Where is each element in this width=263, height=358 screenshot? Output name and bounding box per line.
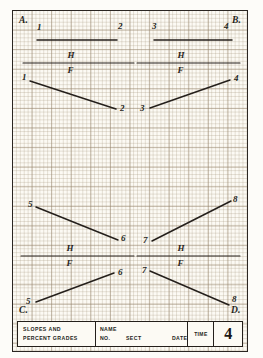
line-c-h [36, 207, 118, 240]
point-label-4-b-h: 4 [224, 21, 229, 31]
point-label-7-d-f: 7 [142, 265, 147, 275]
plane-label-f-b: F [178, 65, 184, 75]
plane-label-h-c: H [67, 243, 74, 253]
plane-label-f-a: F [68, 65, 74, 75]
drawing-canvas [13, 11, 248, 352]
number-label: NO. [100, 334, 126, 343]
title-block-description: SLOPES AND PERCENT GRADES [18, 322, 96, 346]
line-a-f [30, 81, 116, 109]
line-c-f [36, 273, 114, 302]
plane-label-f-c: F [67, 258, 73, 268]
line-d-h [152, 201, 231, 241]
title-block-time: TIME [188, 322, 214, 346]
point-label-5-c-h: 5 [28, 199, 33, 209]
corner-label-b: B. [232, 15, 241, 25]
point-label-6-c-h: 6 [121, 233, 126, 243]
point-label-4-b-f: 4 [234, 73, 239, 83]
point-label-2-a-f: 2 [120, 103, 125, 113]
point-label-1-a-h: 1 [37, 22, 42, 32]
description-line-2: PERCENT GRADES [23, 334, 95, 343]
corner-label-c: C. [19, 305, 28, 315]
sheet-number: 4 [224, 326, 232, 342]
point-label-1-a-f: 1 [22, 72, 27, 82]
line-d-f [150, 271, 229, 305]
title-block: SLOPES AND PERCENT GRADES NAME NO. SECT … [17, 321, 243, 347]
point-label-7-d-h: 7 [143, 235, 148, 245]
point-label-8-d-f: 8 [232, 294, 237, 304]
description-line-1: SLOPES AND [23, 325, 95, 334]
point-label-3-b-h: 3 [152, 21, 157, 31]
title-block-sheet-number: 4 [214, 322, 242, 346]
corner-label-a: A. [19, 15, 28, 25]
name-sub-labels: NO. SECT DATE [100, 334, 188, 343]
point-label-3-b-f: 3 [140, 103, 145, 113]
point-label-2-a-h: 2 [118, 21, 123, 31]
plane-label-h-a: H [68, 50, 75, 60]
corner-label-d: D. [231, 305, 241, 315]
section-label: SECT [126, 334, 172, 343]
point-label-8-d-h: 8 [233, 194, 238, 204]
point-label-5-c-f: 5 [26, 296, 31, 306]
date-label: DATE [172, 334, 188, 343]
point-label-6-c-f: 6 [118, 267, 123, 277]
plane-label-h-d: H [178, 243, 185, 253]
plane-label-f-d: F [178, 258, 184, 268]
name-label: NAME [100, 325, 188, 334]
construction-lines [21, 40, 240, 305]
time-label: TIME [194, 331, 208, 337]
line-b-f [150, 80, 230, 108]
title-block-name-fields: NAME NO. SECT DATE [96, 322, 189, 346]
worksheet-sheet: A. B. C. D. HF1212HF3434HF5656HF7878 SLO… [12, 10, 248, 352]
plane-label-h-b: H [178, 50, 185, 60]
